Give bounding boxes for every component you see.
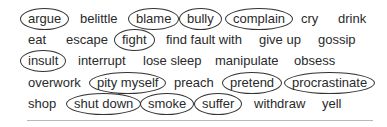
word: gossip	[318, 32, 356, 48]
circled-word: procrastinate	[284, 72, 375, 94]
circled-word: complain	[225, 8, 293, 30]
word: withdraw	[254, 96, 305, 112]
word: shop	[28, 96, 56, 112]
circled-word: pretend	[222, 72, 282, 94]
word: cry	[301, 11, 318, 27]
circled-word: blame	[128, 8, 179, 30]
word: manipulate	[215, 53, 279, 69]
word: find fault with	[166, 32, 242, 48]
word: give up	[259, 32, 301, 48]
circled-word: pity myself	[89, 72, 166, 94]
word: yell	[322, 96, 342, 112]
word: obsess	[294, 53, 335, 69]
word: overwork	[28, 75, 81, 91]
circled-word: fight	[114, 29, 155, 51]
circled-word: bully	[179, 8, 222, 30]
circled-word: insult	[20, 50, 66, 72]
word: drink	[338, 11, 366, 27]
word: interrupt	[78, 53, 126, 69]
divider-rule	[27, 120, 373, 121]
word: lose sleep	[143, 53, 202, 69]
circled-word: argue	[20, 8, 69, 30]
circled-word: shut down	[66, 93, 141, 115]
circled-word: smoke	[140, 93, 194, 115]
word: belittle	[80, 11, 118, 27]
word: escape	[66, 32, 108, 48]
circled-word: suffer	[194, 93, 242, 115]
word: eat	[28, 32, 46, 48]
word: preach	[174, 75, 214, 91]
